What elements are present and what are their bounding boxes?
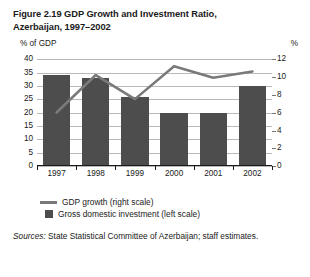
gdp-growth-line [37,59,272,166]
right-axis-caption: % [291,39,298,48]
x-tick-label: 1999 [115,169,154,178]
legend-label: GDP growth (right scale) [62,197,154,207]
chart-legend: GDP growth (right scale)Gross domestic i… [40,196,300,220]
y-tick-right-label: 12 [277,55,286,63]
x-tick-label: 1997 [37,169,76,178]
legend-item: GDP growth (right scale) [40,196,300,208]
source-prefix: Sources: [13,231,46,241]
figure-title: Figure 2.19 GDP Growth and Investment Ra… [13,8,263,33]
y-tick-left-label: 10 [24,135,33,143]
y-tick-left-label: 20 [24,109,33,117]
x-tick-label: 2000 [155,169,194,178]
y-tick-right-mark [272,95,276,96]
legend-line-swatch-icon [40,201,57,204]
figure-container: Figure 2.19 GDP Growth and Investment Ra… [0,0,310,277]
plot-wrapper: 0510152025303540 024681012 1997199819992… [10,52,300,180]
y-tick-left-label: 5 [28,149,33,157]
x-tick-mark [115,166,116,170]
y-tick-right-label: 6 [277,109,282,117]
y-tick-left-label: 35 [24,69,33,77]
source-note: Sources: State Statistical Committee of … [13,231,293,243]
axis-captions: % of GDP % [10,39,300,52]
source-text: State Statistical Committee of Azerbaija… [46,231,258,241]
y-tick-right-mark [272,77,276,78]
y-tick-right-mark [272,131,276,132]
legend-box-swatch-icon [45,210,53,218]
y-tick-left-label: 30 [24,82,33,90]
x-axis-end-mark [272,166,273,170]
x-tick-mark [155,166,156,170]
y-tick-right-label: 4 [277,127,282,135]
y-tick-right-mark [272,113,276,114]
x-tick-label: 2002 [233,169,272,178]
left-axis-caption: % of GDP [20,39,56,48]
y-tick-left-label: 15 [24,122,33,130]
y-tick-right-mark [272,148,276,149]
x-tick-label: 2001 [194,169,233,178]
y-tick-right-label: 0 [277,162,282,170]
x-tick-mark [76,166,77,170]
y-tick-right-label: 8 [277,91,282,99]
y-tick-right-label: 10 [277,73,286,81]
line-series [37,59,272,166]
plot-area: 0510152025303540 024681012 1997199819992… [37,59,272,166]
line-path [57,66,253,112]
y-tick-left-label: 25 [24,95,33,103]
x-axis-end-mark [37,166,38,170]
y-tick-left-label: 40 [24,55,33,63]
legend-item: Gross domestic investment (left scale) [40,208,300,220]
x-tick-label: 1998 [76,169,115,178]
x-tick-mark [194,166,195,170]
y-tick-left-label: 0 [28,162,33,170]
y-tick-right-label: 2 [277,144,282,152]
legend-label: Gross domestic investment (left scale) [58,209,200,219]
x-tick-mark [233,166,234,170]
y-tick-right-mark [272,59,276,60]
